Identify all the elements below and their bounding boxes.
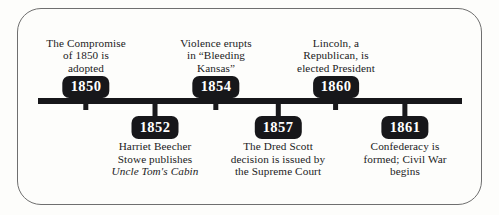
timeline-event-1854: Violence erupts in “Bleeding Kansas” 185… [180, 37, 251, 98]
timeline-figure: The Compromise of 1850 is adopted 1850 V… [0, 0, 499, 215]
connector-stem-1852 [152, 104, 157, 116]
caption-line: begins [363, 165, 446, 178]
caption-line: Lincoln, a [297, 37, 375, 50]
connector-stem-1857 [276, 104, 281, 116]
timeline-axis-bar [38, 98, 462, 104]
caption-line-book-title: Uncle Tom's Cabin [112, 165, 199, 178]
connector-stem-1860 [334, 98, 339, 110]
timeline-event-1850: The Compromise of 1850 is adopted 1850 [46, 37, 125, 98]
event-caption-1852: Harriet Beecher Stowe publishes Uncle To… [112, 140, 199, 178]
event-caption-1860: Lincoln, a Republican, is elected Presid… [297, 37, 375, 75]
caption-line: Republican, is [297, 49, 375, 62]
connector-stem-1854 [213, 98, 218, 110]
caption-line: Violence erupts [180, 37, 251, 50]
event-caption-1854: Violence erupts in “Bleeding Kansas” [180, 37, 251, 75]
event-caption-1857: The Dred Scott decision is issued by the… [231, 140, 325, 178]
date-badge-1861[interactable]: 1861 [382, 116, 429, 139]
caption-line: adopted [46, 62, 125, 75]
caption-line: in “Bleeding [180, 49, 251, 62]
caption-line: elected President [297, 62, 375, 75]
connector-stem-1850 [83, 98, 88, 110]
caption-line: formed; Civil War [363, 153, 446, 166]
event-caption-1850: The Compromise of 1850 is adopted [46, 37, 125, 75]
date-badge-wrapper-1850: 1850 [46, 76, 125, 99]
date-badge-wrapper-1854: 1854 [180, 76, 251, 99]
date-badge-1850[interactable]: 1850 [63, 76, 110, 99]
caption-line: of 1850 is [46, 49, 125, 62]
event-caption-1861: Confederacy is formed; Civil War begins [363, 140, 446, 178]
caption-line: The Dred Scott [231, 140, 325, 153]
timeline-event-1861: 1861 Confederacy is formed; Civil War be… [363, 116, 446, 178]
date-badge-wrapper-1857: 1857 [231, 116, 325, 139]
connector-stem-1861 [403, 104, 408, 116]
caption-line: the Supreme Court [231, 165, 325, 178]
caption-line: Confederacy is [363, 140, 446, 153]
date-badge-1857[interactable]: 1857 [255, 116, 302, 139]
date-badge-1852[interactable]: 1852 [132, 116, 179, 139]
caption-line: The Compromise [46, 37, 125, 50]
date-badge-wrapper-1861: 1861 [363, 116, 446, 139]
caption-line: Kansas” [180, 62, 251, 75]
caption-line: Stowe publishes [112, 153, 199, 166]
timeline-event-1857: 1857 The Dred Scott decision is issued b… [231, 116, 325, 178]
date-badge-1854[interactable]: 1854 [193, 76, 240, 99]
date-badge-wrapper-1852: 1852 [112, 116, 199, 139]
date-badge-wrapper-1860: 1860 [297, 76, 375, 99]
date-badge-1860[interactable]: 1860 [313, 76, 360, 99]
timeline-event-1852: 1852 Harriet Beecher Stowe publishes Unc… [112, 116, 199, 178]
caption-line: decision is issued by [231, 153, 325, 166]
timeline-event-1860: Lincoln, a Republican, is elected Presid… [297, 37, 375, 98]
caption-line: Harriet Beecher [112, 140, 199, 153]
